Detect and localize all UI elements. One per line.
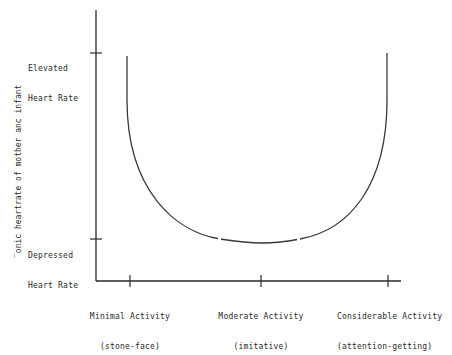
x-tick-label-considerable: Considerable Activity (attention-getting… [337,292,452,355]
x-tick-label-line2: (stone-face) [70,342,190,352]
y-tick-label-line1: Elevated [28,64,78,74]
x-tick-label-moderate: Moderate Activity (imitative) [196,292,326,355]
x-tick-label-line1: Minimal Activity [70,312,190,322]
x-tick-label-line2: (attention-getting) [337,342,452,352]
x-tick-label-line1: Considerable Activity [337,312,452,322]
curve-gap-left [218,236,221,242]
y-axis-label: ‾onic heartrate of mother anc infant [14,85,24,258]
x-tick-label-line2: (imitative) [196,342,326,352]
y-tick-label-line2: Heart Rate [28,281,78,291]
x-tick-label-minimal: Minimal Activity (stone-face) [70,292,190,355]
curve-gap-right [297,235,300,241]
y-tick-label-line1: Depressed [28,251,78,261]
heart-rate-curve [127,53,387,243]
y-tick-label-depressed: Depressed Heart Rate [28,231,78,301]
y-tick-label-elevated: Elevated Heart Rate [28,44,78,114]
y-tick-label-line2: Heart Rate [28,94,78,104]
x-tick-label-line1: Moderate Activity [196,312,326,322]
